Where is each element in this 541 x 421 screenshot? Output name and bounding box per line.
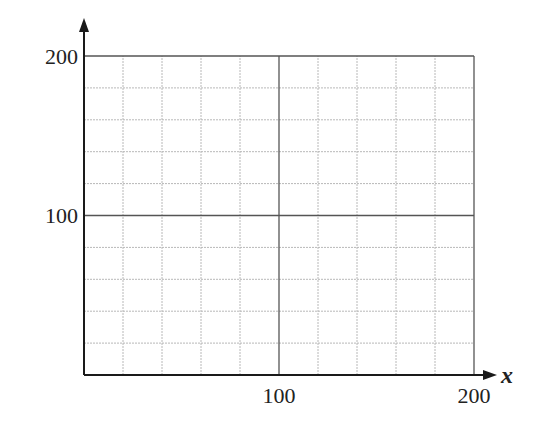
blank-coordinate-grid: 200 100 100 200 x	[0, 0, 541, 421]
y-tick-label-200: 200	[45, 44, 78, 69]
x-axis-label: x	[500, 362, 513, 388]
y-tick-label-100: 100	[45, 203, 78, 228]
major-gridlines	[84, 56, 474, 375]
x-tick-label-100: 100	[263, 383, 296, 408]
axes	[79, 18, 497, 380]
x-tick-label-200: 200	[458, 383, 491, 408]
y-axis-arrow-icon	[79, 18, 89, 32]
x-axis-arrow-icon	[483, 370, 497, 380]
